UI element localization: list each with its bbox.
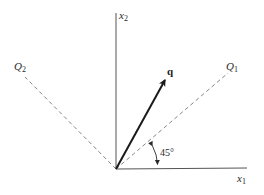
q-vector-label: q bbox=[167, 65, 174, 77]
angle-arc bbox=[153, 146, 158, 165]
q-vector bbox=[116, 80, 165, 169]
angle-label: 45° bbox=[160, 147, 174, 158]
rotation-diagram: x2 x1 Q1 Q2 q 45° bbox=[0, 0, 264, 195]
x1-axis bbox=[116, 168, 247, 169]
q1-axis-label: Q1 bbox=[226, 60, 238, 74]
x2-axis-label: x2 bbox=[118, 9, 128, 23]
q2-axis-label: Q2 bbox=[14, 60, 26, 74]
q2-axis bbox=[25, 77, 116, 169]
x1-axis-label: x1 bbox=[236, 172, 246, 186]
